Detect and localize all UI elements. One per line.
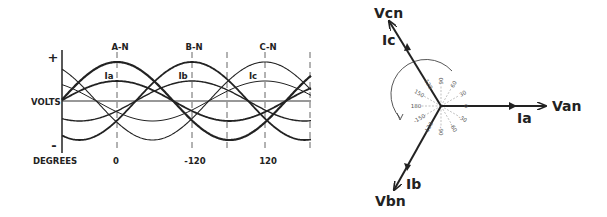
label-ic: Ic xyxy=(382,32,396,48)
current-label-ic: Ic xyxy=(249,71,257,81)
waveform-plot: + - VOLTS DEGREES A-N B-N C-N Ia Ib Ic 0… xyxy=(31,42,311,166)
three-phase-diagram: + - VOLTS DEGREES A-N B-N C-N Ia Ib Ic 0… xyxy=(0,0,607,217)
tick-minus-120: -120 xyxy=(184,156,205,166)
phase-label-an: A-N xyxy=(111,42,128,52)
angle-label: -60 xyxy=(449,122,459,133)
label-van: Van xyxy=(552,98,581,114)
phasor-diagram: Van Vcn Vbn Ia Ic Ib 0306090120150180-15… xyxy=(374,5,581,209)
label-ib: Ib xyxy=(406,176,421,192)
label-vcn: Vcn xyxy=(374,5,403,21)
angle-spoke xyxy=(441,106,451,123)
angle-spoke xyxy=(441,89,451,106)
angle-label: 180 xyxy=(411,103,422,109)
angle-label: -30 xyxy=(457,114,468,124)
angle-label: 60 xyxy=(449,79,458,88)
angle-label: 150 xyxy=(413,88,426,99)
angle-spoke xyxy=(441,96,458,106)
angle-spoke xyxy=(441,106,458,116)
angle-label: 120 xyxy=(423,78,434,91)
label-ia: Ia xyxy=(517,110,532,126)
phase-label-cn: C-N xyxy=(259,42,276,52)
phase-label-bn: B-N xyxy=(185,42,202,52)
degrees-label: DEGREES xyxy=(33,156,77,166)
angle-label: 0 xyxy=(464,103,468,109)
angle-label: 30 xyxy=(458,89,467,98)
phasor-ia-arrowhead xyxy=(509,102,517,110)
current-label-ia: Ia xyxy=(105,71,114,81)
plus-label: + xyxy=(48,50,59,65)
tick-120: 120 xyxy=(259,156,277,166)
current-label-ib: Ib xyxy=(178,71,187,81)
tick-0: 0 xyxy=(113,156,119,166)
angle-label: -90 xyxy=(438,127,444,136)
label-vbn: Vbn xyxy=(375,193,406,209)
volts-label: VOLTS xyxy=(31,97,61,107)
angle-label: -150 xyxy=(412,113,426,125)
angle-label: 90 xyxy=(438,77,444,84)
rotation-arrowhead-icon xyxy=(397,113,403,120)
minus-label: - xyxy=(51,138,56,153)
